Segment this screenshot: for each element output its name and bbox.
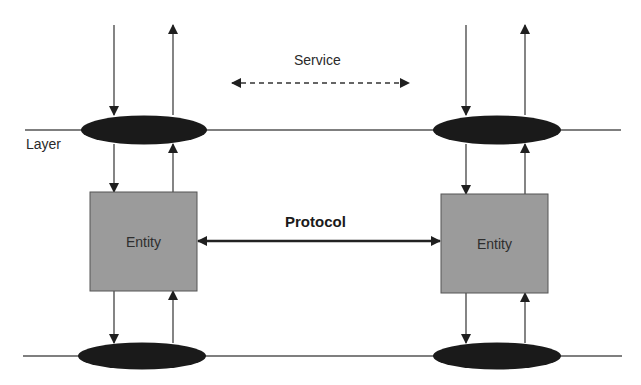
protocol-label: Protocol	[285, 214, 346, 229]
lower-left-sap-ellipse	[78, 343, 206, 370]
layer-label: Layer	[26, 137, 61, 151]
right-entity-label: Entity	[441, 237, 548, 251]
upper-left-sap-ellipse	[81, 116, 207, 145]
left-entity-label: Entity	[90, 235, 197, 249]
lower-right-sap-ellipse	[433, 343, 561, 370]
service-label: Service	[294, 53, 341, 67]
upper-right-sap-ellipse	[433, 116, 561, 145]
